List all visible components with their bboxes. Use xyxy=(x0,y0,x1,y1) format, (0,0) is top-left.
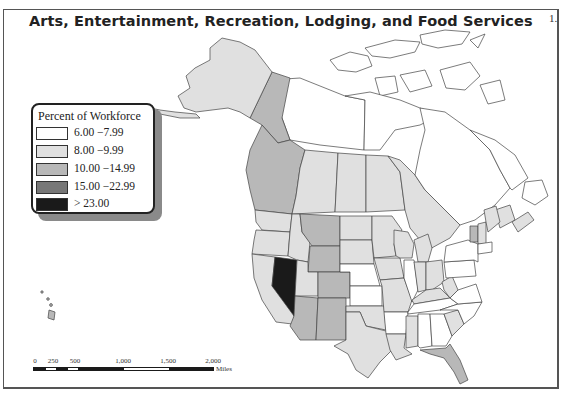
legend-label: > 23.00 xyxy=(74,197,109,209)
scale-tick: 250 xyxy=(48,357,59,365)
region-kansas xyxy=(350,286,382,306)
legend-label: 15.00 −22.99 xyxy=(74,180,135,192)
region-new-england-south xyxy=(478,242,492,254)
legend-label: 10.00 −14.99 xyxy=(74,162,135,174)
scale-tick: 0 xyxy=(33,357,37,365)
region-florida xyxy=(420,344,468,384)
legend-label: 8.00 −9.99 xyxy=(74,144,124,156)
region-vermont xyxy=(470,226,478,242)
region-new-york xyxy=(444,240,478,262)
scale-segment xyxy=(68,368,78,370)
region-new-hampshire xyxy=(478,222,486,244)
scale-tick: 1,500 xyxy=(160,357,176,365)
arctic-archipelago xyxy=(330,30,505,104)
legend-swatch xyxy=(36,163,68,176)
legend-item: > 23.00 xyxy=(36,198,151,213)
region-ohio xyxy=(426,260,444,290)
region-mississippi xyxy=(406,316,418,348)
legend-swatch xyxy=(36,198,68,211)
region-washington xyxy=(255,210,292,232)
region-arkansas xyxy=(384,312,408,334)
region-wisconsin xyxy=(394,230,414,258)
legend-swatch xyxy=(36,127,68,140)
region-colorado xyxy=(318,272,350,298)
region-iowa xyxy=(374,258,404,280)
region-alabama xyxy=(418,314,432,348)
legend-swatch xyxy=(36,145,68,158)
region-north-dakota xyxy=(340,216,372,240)
region-saskatchewan xyxy=(335,153,366,212)
legend-item: 8.00 −9.99 xyxy=(36,145,151,160)
legend-item: 6.00 −7.99 xyxy=(36,127,151,142)
legend-label: 6.00 −7.99 xyxy=(74,126,124,138)
legend: Percent of Workforce 6.00 −7.99 8.00 −9.… xyxy=(31,103,155,214)
scale-segment xyxy=(124,368,169,370)
scale-tick: 500 xyxy=(70,357,81,365)
region-newfoundland xyxy=(522,180,548,205)
region-hawaii xyxy=(41,291,55,320)
legend-item: 10.00 −14.99 xyxy=(36,163,151,178)
legend-title: Percent of Workforce xyxy=(38,109,141,124)
legend-swatch xyxy=(36,181,68,194)
scale-bar: 0 250 500 1,000 1,500 2,000 Miles xyxy=(33,357,253,383)
region-michigan xyxy=(414,234,432,262)
scale-units: Miles xyxy=(216,365,232,373)
legend-item: 15.00 −22.99 xyxy=(36,181,151,196)
scale-tick: 1,000 xyxy=(115,357,131,365)
scale-segment xyxy=(46,368,56,370)
region-south-dakota xyxy=(340,240,374,264)
region-wyoming xyxy=(308,246,340,272)
region-nova-scotia xyxy=(512,212,534,232)
region-pennsylvania xyxy=(444,260,476,278)
region-oregon xyxy=(252,230,290,256)
scale-tick: 2,000 xyxy=(205,357,221,365)
scale-bar-graphic xyxy=(33,367,214,371)
region-new-mexico xyxy=(316,298,346,340)
